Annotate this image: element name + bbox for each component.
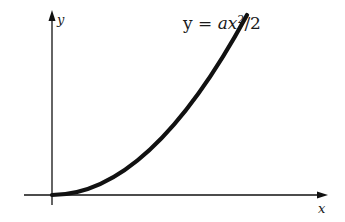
x-axis-arrow-icon — [317, 192, 328, 199]
x-axis-label: x — [318, 201, 326, 216]
equation-label: y = ax2/2 — [182, 13, 261, 33]
y-axis-arrow-icon — [49, 10, 56, 21]
parabola-curve — [52, 15, 247, 195]
y-axis-label: y — [56, 12, 65, 27]
parabola-diagram: y x y = ax2/2 — [0, 0, 345, 222]
